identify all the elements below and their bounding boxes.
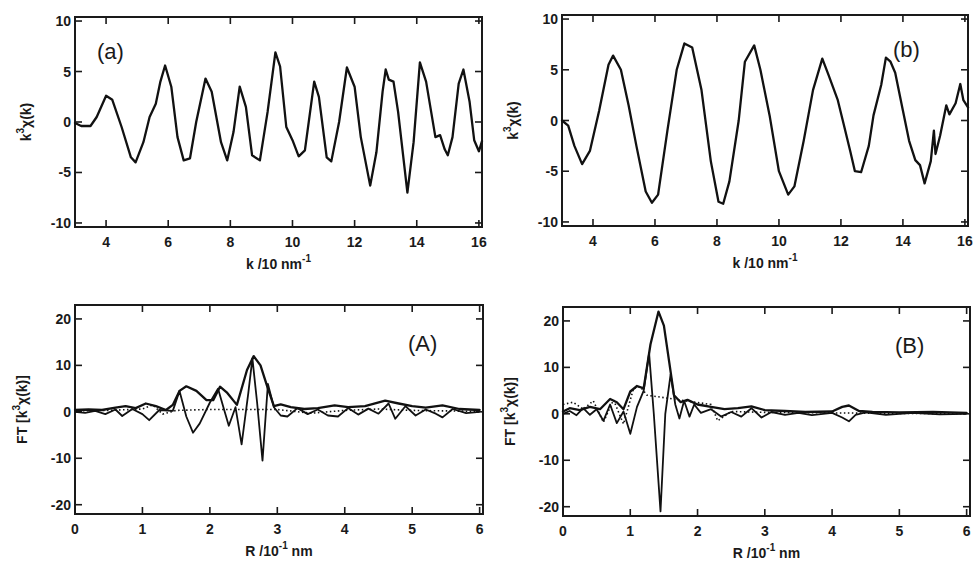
y-tick-label: -10: [539, 452, 559, 468]
x-tick-label: 14: [895, 233, 911, 249]
y-axis-title: FT [k3χ(k)]: [499, 377, 518, 446]
x-tick-label: 12: [833, 233, 849, 249]
x-axis-title: k /10 nm-1: [246, 253, 311, 272]
x-tick-label: 2: [206, 521, 214, 537]
y-tick-label: 0: [63, 404, 71, 420]
y-tick-label: -10: [51, 215, 71, 231]
series-k3chi: [562, 43, 968, 203]
x-axis-title: k /10 nm-1: [733, 252, 798, 271]
panel-label: (A): [408, 331, 437, 356]
x-tick-label: 5: [895, 523, 903, 539]
figure-canvas: 46810121416-10-50510k /10 nm-1k3χ(k)(a) …: [0, 0, 980, 574]
x-tick-label: 12: [347, 234, 363, 250]
y-tick-label: -10: [51, 450, 71, 466]
y-axis-title: FT [k3χ(k)]: [11, 375, 30, 444]
x-tick-label: 0: [71, 521, 79, 537]
y-tick-label: -20: [539, 499, 559, 515]
y-tick-label: 5: [63, 64, 71, 80]
x-tick-label: 16: [471, 234, 487, 250]
series-k3chi: [75, 52, 482, 192]
x-tick-label: 4: [828, 523, 836, 539]
x-tick-label: 8: [713, 233, 721, 249]
y-tick-label: 0: [63, 114, 71, 130]
x-tick-label: 4: [341, 521, 349, 537]
y-tick-label: 0: [551, 406, 559, 422]
x-tick-label: 5: [408, 521, 416, 537]
series-magnitude: [75, 356, 480, 410]
x-tick-label: 14: [409, 234, 425, 250]
x-tick-label: 4: [102, 234, 110, 250]
x-tick-label: 2: [694, 523, 702, 539]
x-axis-title: R /10-1 nm: [245, 540, 312, 559]
panel-label: (B): [895, 333, 924, 358]
x-tick-label: 1: [626, 523, 634, 539]
x-tick-label: 6: [476, 521, 484, 537]
panel-label: (a): [97, 39, 124, 64]
y-tick-label: 10: [55, 13, 71, 29]
y-tick-label: 20: [543, 313, 559, 329]
panel-A-fourier: 0123456-20-1001020R /10-1 nmFT [k3χ(k)](…: [11, 305, 484, 559]
x-tick-label: 6: [164, 234, 172, 250]
x-axis-title: R /10-1 nm: [733, 542, 800, 561]
series-magnitude: [563, 312, 967, 413]
panel-label: (b): [893, 37, 920, 62]
y-tick-label: -10: [538, 214, 558, 230]
series-imaginary: [563, 353, 967, 511]
x-tick-label: 16: [957, 233, 973, 249]
y-tick-label: 10: [542, 11, 558, 27]
x-tick-label: 1: [139, 521, 147, 537]
y-tick-label: 0: [550, 113, 558, 129]
x-tick-label: 8: [226, 234, 234, 250]
x-tick-label: 3: [273, 521, 281, 537]
x-tick-label: 6: [963, 523, 971, 539]
panel-b: 46810121416-10-50510k /10 nm-1k3χ(k)(b): [502, 11, 973, 271]
y-tick-label: 10: [543, 359, 559, 375]
panel-B-fourier: 0123456-20-1001020R /10-1 nmFT [k3χ(k)](…: [499, 307, 971, 561]
x-tick-label: 10: [771, 233, 787, 249]
x-tick-label: 6: [651, 233, 659, 249]
x-tick-label: 4: [589, 233, 597, 249]
y-tick-label: -5: [59, 164, 72, 180]
plot-frame: [75, 17, 482, 227]
series-fit: [563, 387, 967, 424]
y-axis-title: k3χ(k): [15, 103, 34, 142]
x-tick-label: 10: [285, 234, 301, 250]
x-tick-label: 0: [559, 523, 567, 539]
y-tick-label: 10: [55, 357, 71, 373]
y-tick-label: -5: [546, 163, 559, 179]
y-tick-label: 5: [550, 62, 558, 78]
y-tick-label: 20: [55, 311, 71, 327]
y-axis-title: k3χ(k): [502, 101, 521, 140]
x-tick-label: 3: [761, 523, 769, 539]
panel-a: 46810121416-10-50510k /10 nm-1k3χ(k)(a): [15, 13, 487, 272]
y-tick-label: -20: [51, 497, 71, 513]
